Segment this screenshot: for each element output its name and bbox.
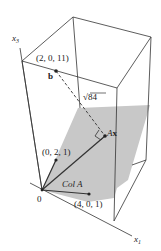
origin-label: 0 xyxy=(37,195,42,204)
x3-axis xyxy=(20,48,42,190)
point-b xyxy=(54,69,58,73)
point-0-2-1 xyxy=(54,158,57,161)
x1-axis-label: x1 xyxy=(134,235,141,245)
ax-label: Ax xyxy=(107,129,117,138)
point-4-0-1 xyxy=(87,192,90,195)
distance-label: √84 xyxy=(83,93,97,102)
b-label: b xyxy=(48,72,53,81)
v2-coords-label: (0, 2, 1) xyxy=(42,148,71,157)
x3-axis-label: x3 xyxy=(12,34,19,44)
b-coords-label: (2, 0, 11) xyxy=(36,54,69,63)
col-a-label: Col A xyxy=(62,180,83,189)
point-origin xyxy=(41,189,44,192)
column-space-figure xyxy=(0,0,161,251)
v1-coords-label: (4, 0, 1) xyxy=(74,200,103,209)
